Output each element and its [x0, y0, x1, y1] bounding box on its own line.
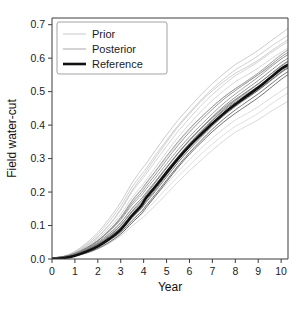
x-tick-label: 10 — [275, 265, 287, 277]
y-tick-label: 0.2 — [30, 186, 45, 198]
x-tick-label: 1 — [72, 265, 78, 277]
x-tick-label: 2 — [95, 265, 101, 277]
y-tick-label: 0.6 — [30, 52, 45, 64]
chart-figure: 0.00.10.20.30.40.50.60.7012345678910Year… — [0, 0, 304, 311]
legend-label-prior: Prior — [92, 28, 116, 40]
water-cut-line-chart: 0.00.10.20.30.40.50.60.7012345678910Year… — [0, 0, 304, 311]
x-tick-label: 4 — [141, 265, 147, 277]
x-tick-label: 0 — [49, 265, 55, 277]
x-tick-label: 6 — [187, 265, 193, 277]
x-tick-label: 7 — [209, 265, 215, 277]
y-tick-label: 0.4 — [30, 119, 45, 131]
legend-layer: PriorPosteriorReference — [57, 22, 167, 74]
y-tick-label: 0.5 — [30, 85, 45, 97]
x-tick-label: 3 — [118, 265, 124, 277]
y-tick-label: 0.0 — [30, 253, 45, 265]
x-tick-label: 8 — [232, 265, 238, 277]
y-tick-label: 0.1 — [30, 219, 45, 231]
y-tick-label: 0.7 — [30, 18, 45, 30]
legend-label-reference: Reference — [92, 58, 143, 70]
legend-label-posterior: Posterior — [92, 43, 136, 55]
y-tick-label: 0.3 — [30, 152, 45, 164]
y-axis-title: Field water-cut — [5, 98, 19, 177]
x-tick-label: 9 — [255, 265, 261, 277]
x-axis-title: Year — [158, 280, 182, 294]
x-tick-label: 5 — [164, 265, 170, 277]
